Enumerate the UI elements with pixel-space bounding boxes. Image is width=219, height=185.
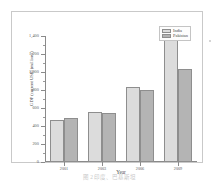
bar-pakistan-2003	[102, 113, 116, 162]
figure-frame: 02004006008001,0001,2001,400 20012003200…	[11, 11, 203, 163]
chart-legend: IndiaPakistan	[159, 26, 191, 41]
legend-label: Pakistan	[173, 34, 188, 38]
bar-pakistan-2001	[64, 118, 78, 162]
legend-swatch-pakistan	[162, 34, 171, 39]
scan-artifact-mark	[209, 40, 211, 42]
y-axis-tick-label: 0	[37, 160, 39, 164]
chart-axes: 02004006008001,0001,2001,400 20012003200…	[45, 36, 197, 162]
bar-pakistan-2006	[140, 90, 154, 162]
y-axis-tick-label: 200	[32, 142, 39, 146]
y-axis-tick	[41, 162, 45, 163]
bars-plot-area	[45, 36, 197, 162]
bar-india-2009	[164, 39, 178, 162]
y-axis-title: GDP (current US$) (millions)	[29, 24, 34, 134]
bar-india-2006	[126, 87, 140, 162]
figure-caption: 图 2 印度、巴基斯坦	[0, 173, 219, 181]
figure-container: 02004006008001,0001,2001,400 20012003200…	[0, 0, 219, 185]
bar-india-2001	[50, 120, 64, 162]
bar-pakistan-2009	[178, 69, 192, 162]
legend-item-pakistan: Pakistan	[162, 34, 188, 39]
bar-india-2003	[88, 112, 102, 162]
legend-swatch-india	[162, 29, 171, 34]
